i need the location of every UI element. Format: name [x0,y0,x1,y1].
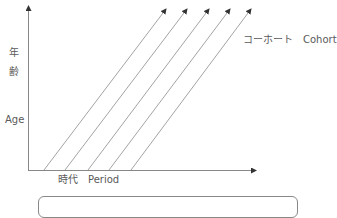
cohort-line-2 [65,9,187,170]
y-axis-label-en: Age [5,115,24,125]
y-axis-label-ja-1: 年 [9,48,19,58]
caption-box [38,196,298,218]
y-axis-label-ja-2: 齢 [9,67,19,77]
x-axis-label: 時代 Period [58,175,119,185]
cohort-line-4 [109,9,230,170]
cohort-lines [44,9,251,170]
cohort-line-1 [44,9,166,170]
cohort-label: コーホート Cohort [243,35,337,45]
